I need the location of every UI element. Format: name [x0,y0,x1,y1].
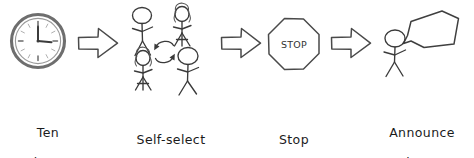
step-1-label-line1: Ten [37,125,59,140]
four-people-rotation-icon [125,2,217,98]
stop-sign-text: STOP [281,39,307,50]
step-4-label: Announce to the room [370,110,474,158]
step-1-label-line2: minutes [21,155,74,158]
speech-bubble-shape [404,11,459,48]
step-4-label-line2: to the room [383,155,461,158]
step-2-label-line1: Self-select [137,132,206,147]
step-3-icon: STOP [266,16,322,72]
connector-1 [76,26,120,60]
step-3-label-line1: Stop [279,132,309,147]
wall-clock-icon [6,9,70,73]
step-1-icon [6,9,70,73]
process-flow-diagram: Ten minutes [0,0,474,158]
stick-figure-bottom-right [178,48,199,96]
stick-figure-bottom-left [135,47,153,90]
person-speech-bubble-icon [378,4,464,80]
right-arrow-icon [76,26,120,60]
right-arrow-icon [219,26,263,60]
step-2-label: Self-select [118,117,224,147]
stop-sign-icon: STOP [266,16,322,72]
step-4-icon [378,4,464,80]
connector-3 [329,26,373,60]
rotation-arrows-icon [154,41,175,62]
right-arrow-icon [329,26,373,60]
step-4-label-line1: Announce [389,125,455,140]
step-1-label: Ten minutes [4,110,92,158]
stick-figure-top-left [133,8,153,56]
stick-figure-top-right [174,3,192,46]
step-3-label: Stop [258,117,330,147]
stick-figure-announcer [384,30,406,77]
step-2-icon [125,2,217,98]
connector-2 [219,26,263,60]
